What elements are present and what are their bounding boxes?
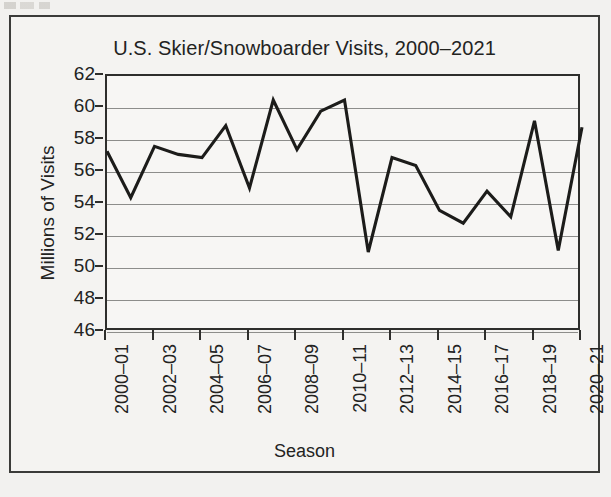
y-axis-tick-label: 54 xyxy=(74,191,95,213)
x-axis-tick-label: 2002–03 xyxy=(160,344,181,414)
chart-title: U.S. Skier/Snowboarder Visits, 2000–2021 xyxy=(11,37,598,60)
y-axis-tick-mark xyxy=(95,297,103,299)
x-axis-tick-label: 2016–17 xyxy=(492,344,513,414)
y-axis-tick-mark xyxy=(95,265,103,267)
line-series xyxy=(107,76,582,332)
x-axis-tick-mark xyxy=(532,330,534,340)
y-axis-tick-mark xyxy=(95,169,103,171)
y-axis-tick-label: 50 xyxy=(74,255,95,277)
x-axis-tick-label: 2010–11 xyxy=(350,344,371,413)
y-axis-tick-label: 46 xyxy=(74,319,95,341)
x-axis-tick-labels: 2000–012002–032004–052006–072008–092010–… xyxy=(105,344,580,444)
x-axis-tick-mark xyxy=(294,330,296,340)
plot-area xyxy=(105,74,580,330)
x-axis-tick-mark xyxy=(342,330,344,340)
x-axis-tick-mark xyxy=(484,330,486,340)
x-axis-tick-mark xyxy=(247,330,249,340)
y-axis-tick-labels: 626058565452504846 xyxy=(11,74,95,330)
x-axis-title: Season xyxy=(11,441,598,462)
y-axis-tick-label: 58 xyxy=(74,127,95,149)
y-axis-tick-label: 48 xyxy=(74,287,95,309)
x-axis-tick-label: 2018–19 xyxy=(540,344,561,414)
x-axis-tick-label: 2008–09 xyxy=(302,344,323,414)
y-axis-tick-label: 52 xyxy=(74,223,95,245)
x-axis-tick-label: 2000–01 xyxy=(112,344,133,414)
scan-artifact xyxy=(4,2,56,9)
x-axis-tick-mark xyxy=(152,330,154,340)
x-axis-tick-mark xyxy=(104,330,106,340)
y-axis-tick-label: 60 xyxy=(74,95,95,117)
x-axis-tick-label: 2012–13 xyxy=(397,344,418,414)
chart-figure: U.S. Skier/Snowboarder Visits, 2000–2021… xyxy=(9,15,600,473)
x-axis-tick-marks xyxy=(105,330,580,340)
y-axis-tick-label: 62 xyxy=(74,63,95,85)
y-axis-tick-label: 56 xyxy=(74,159,95,181)
y-axis-tick-mark xyxy=(95,137,103,139)
y-axis-tick-mark xyxy=(95,201,103,203)
x-axis-tick-label: 2006–07 xyxy=(255,344,276,414)
y-axis-tick-mark xyxy=(95,329,103,331)
y-axis-tick-mark xyxy=(95,105,103,107)
y-axis-tick-mark xyxy=(95,73,103,75)
x-axis-tick-label: 2014–15 xyxy=(445,344,466,414)
y-axis-tick-mark xyxy=(95,233,103,235)
x-axis-tick-mark xyxy=(579,330,581,340)
x-axis-tick-mark xyxy=(389,330,391,340)
x-axis-tick-mark xyxy=(437,330,439,340)
x-axis-tick-mark xyxy=(199,330,201,340)
x-axis-tick-label: 2004–05 xyxy=(207,344,228,414)
x-axis-tick-label: 2020–21 xyxy=(587,344,608,414)
